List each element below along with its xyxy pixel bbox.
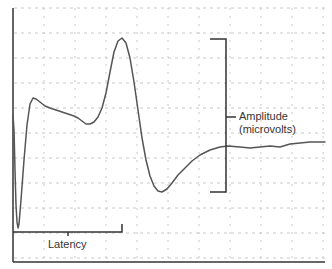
- amplitude-unit-label: (microvolts): [239, 123, 296, 136]
- amplitude-label: Amplitude: [239, 110, 288, 123]
- amplitude-bracket: [210, 39, 236, 192]
- latency-label: Latency: [48, 238, 87, 251]
